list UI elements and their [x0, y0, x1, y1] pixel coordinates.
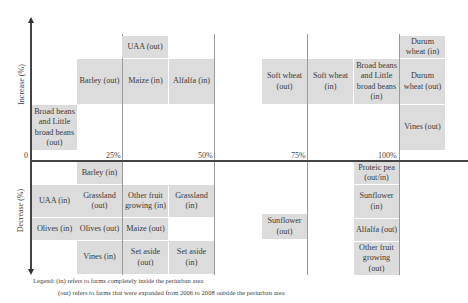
cell-set-aside-out: Set aside (out)	[123, 241, 168, 274]
cell-vines-in: Vines (in)	[77, 241, 122, 274]
cell-grassland-out: Grassland (out)	[77, 185, 122, 217]
arrow-down-icon	[28, 269, 34, 275]
cell-other-fruit-in: Other fruit growing (in)	[123, 185, 168, 217]
cell-sunflower-in: Sunflower (in)	[354, 185, 399, 218]
cell-alfalfa-out: Alfalfa (out)	[354, 219, 399, 241]
cell-durum-wheat-out: Durum wheat (out)	[400, 59, 445, 104]
cell-maize-in: Maize (in)	[123, 59, 168, 104]
cell-proteic-pea: Proteic pea (out/in)	[354, 162, 399, 184]
tick-100: 100%	[378, 151, 397, 160]
cell-durum-wheat-in: Durum wheat (in)	[400, 36, 445, 58]
y-label-increase: Increase (%)	[17, 60, 26, 110]
cell-soft-wheat-in: Soft wheat (in)	[308, 59, 353, 104]
cell-vines-out: Vines (out)	[400, 105, 445, 150]
tick-50: 50%	[198, 151, 213, 160]
legend-line-2: (out) refers to farms that were expanded…	[58, 289, 285, 296]
cell-uaa-in: UAA (in)	[32, 185, 77, 217]
cell-olives-in: Olives (in)	[32, 218, 77, 240]
cell-sunflower-out: Sunflower (out)	[262, 214, 307, 239]
cell-grassland-in: Grassland (in)	[169, 185, 214, 217]
cell-other-fruit-out: Other fruit growing (out)	[354, 242, 399, 275]
tick-75: 75%	[291, 151, 306, 160]
cell-uaa-out: UAA (out)	[122, 36, 168, 58]
cell-maize-out: Maize (out)	[123, 218, 168, 240]
origin-label: 0	[24, 151, 28, 160]
cell-set-aside-in: Set aside (in)	[169, 241, 214, 274]
legend-line-1: Legend: (in) refers to farms completely …	[33, 277, 203, 284]
y-axis	[30, 22, 32, 271]
cell-alfalfa-in: Alfalfa (in)	[169, 59, 214, 104]
cell-soft-wheat-out: Soft wheat (out)	[262, 59, 307, 104]
tick-25: 25%	[106, 151, 121, 160]
y-label-decrease: Decrease (%)	[16, 185, 25, 237]
cell-broad-beans-in: Broad beans and Little broad beans (in)	[354, 59, 399, 104]
cell-barley-out: Barley (out)	[77, 59, 122, 104]
arrow-up-icon	[28, 17, 34, 23]
x-axis	[30, 160, 468, 162]
cell-olives-out: Olives (out)	[77, 218, 122, 240]
cell-barley-in: Barley (in)	[77, 162, 122, 184]
cell-broad-beans-out: Broad beans and Little broad beans (out)	[32, 105, 77, 150]
gridline-50	[214, 34, 215, 275]
